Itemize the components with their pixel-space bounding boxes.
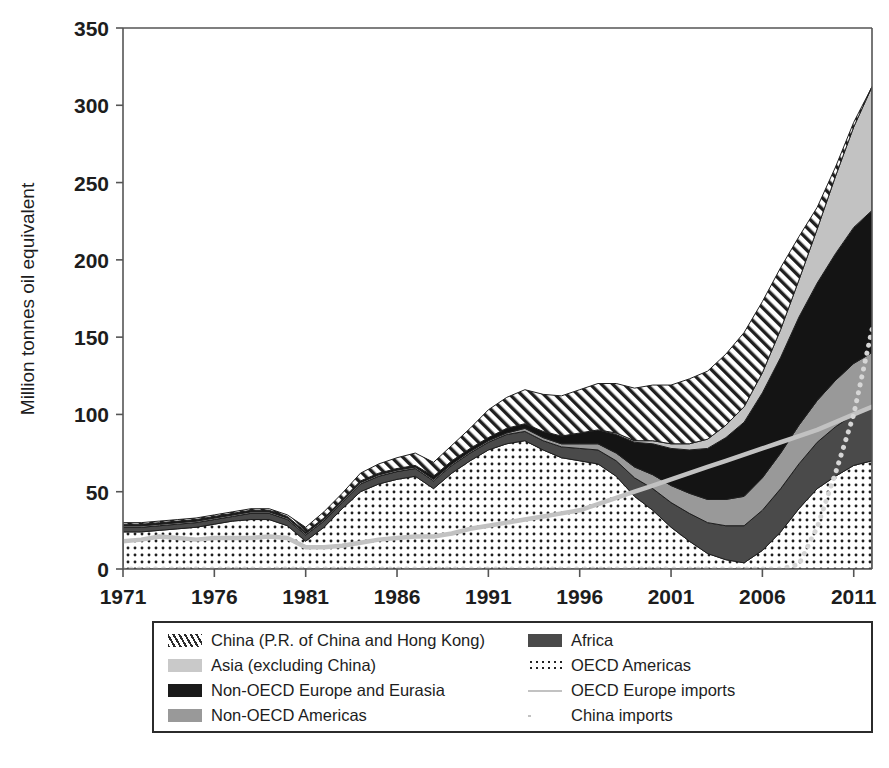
y-tick-label: 300	[74, 94, 109, 117]
x-tick-label: 1976	[191, 585, 238, 608]
y-tick-label: 200	[74, 249, 109, 272]
y-tick-labels: 050100150200250300350	[74, 17, 109, 581]
dotted-swatch	[528, 659, 562, 672]
y-tick-label: 50	[86, 481, 109, 504]
legend-label: Africa	[571, 632, 613, 649]
legend-item[interactable]: Africa	[528, 628, 871, 653]
legend-item[interactable]: China imports	[528, 703, 871, 728]
legend-label: Asia (excluding China)	[211, 657, 376, 674]
x-tick-label: 1991	[465, 585, 512, 608]
legend-item[interactable]: OECD Europe imports	[528, 678, 871, 703]
mid-gray-swatch	[168, 709, 202, 722]
y-tick-label: 100	[74, 403, 109, 426]
legend-item[interactable]: Non-OECD Americas	[168, 703, 528, 728]
x-tick-label: 1971	[100, 585, 147, 608]
x-tick-label: 2011	[831, 585, 877, 608]
legend-label: OECD Americas	[571, 657, 691, 674]
dotted-line-swatch	[528, 709, 562, 722]
chart-legend: China (P.R. of China and Hong Kong)Afric…	[152, 621, 873, 733]
legend-item[interactable]: OECD Americas	[528, 653, 871, 678]
y-tick-label: 150	[74, 326, 109, 349]
chart-page: 050100150200250300350 197119761981198619…	[0, 0, 889, 768]
x-tick-label: 1981	[282, 585, 329, 608]
area-series-group	[123, 87, 872, 569]
legend-label: China (P.R. of China and Hong Kong)	[211, 632, 485, 649]
legend-label: China imports	[571, 707, 673, 724]
x-tick-label: 1996	[556, 585, 603, 608]
legend-item[interactable]: China (P.R. of China and Hong Kong)	[168, 628, 528, 653]
x-tick-label: 2001	[648, 585, 695, 608]
black-swatch	[168, 684, 202, 697]
y-tick-label: 250	[74, 172, 109, 195]
legend-item[interactable]: Asia (excluding China)	[168, 653, 528, 678]
dark-gray-swatch	[528, 634, 562, 647]
legend-label: Non-OECD Americas	[211, 707, 367, 724]
x-tick-label: 1986	[374, 585, 421, 608]
legend-label: Non-OECD Europe and Eurasia	[211, 682, 445, 699]
x-tick-label: 2006	[739, 585, 786, 608]
y-tick-label: 0	[97, 558, 109, 581]
legend-label: OECD Europe imports	[571, 682, 735, 699]
hatch-swatch	[168, 634, 202, 647]
y-axis-title: Million tonnes oil equivalent	[17, 182, 38, 415]
solid-line-swatch	[528, 684, 562, 697]
x-tick-labels: 197119761981198619911996200120062011	[100, 585, 877, 608]
y-tick-label: 350	[74, 17, 109, 40]
legend-item[interactable]: Non-OECD Europe and Eurasia	[168, 678, 528, 703]
light-gray-swatch	[168, 659, 202, 672]
